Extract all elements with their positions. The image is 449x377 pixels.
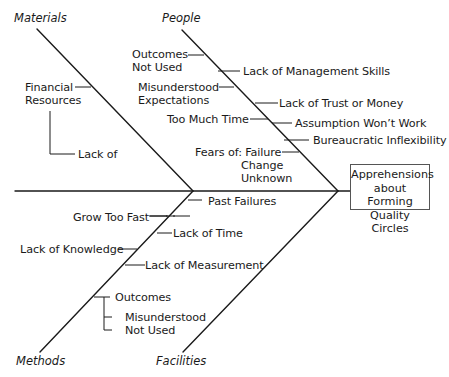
cause-misunderstood-methods: Misunderstood — [125, 311, 206, 324]
cause-misunderstood-expectations: Misunderstood — [138, 81, 219, 94]
cause-outcomes: Outcomes — [132, 48, 188, 61]
cause-not-used-methods: Not Used — [125, 324, 175, 337]
category-facilities: Facilities — [156, 355, 206, 368]
cause-outcomes-methods: Outcomes — [115, 291, 171, 304]
cause-trust-money: Lack of Trust or Money — [279, 97, 403, 110]
cause-financial: Financial — [25, 81, 73, 94]
effect-line-2: about Forming — [351, 182, 429, 209]
cause-lack-of-knowledge: Lack of Knowledge — [20, 243, 123, 256]
cause-fears-change: Change — [241, 159, 283, 172]
effect-box: Apprehensions about Forming Quality Circ… — [350, 164, 430, 210]
cause-fears: Fears of: Failure — [195, 146, 281, 159]
cause-lack-of: Lack of — [78, 148, 117, 161]
cause-too-much-time: Too Much Time — [167, 113, 249, 126]
cause-misunderstood-expectations-2: Expectations — [138, 94, 209, 107]
category-methods: Methods — [16, 355, 65, 368]
cause-past-failures: Past Failures — [208, 195, 276, 208]
cause-lack-of-time: Lack of Time — [173, 227, 243, 240]
cause-fears-unknown: Unknown — [241, 172, 292, 185]
cause-lack-of-measurement: Lack of Measurement — [145, 259, 264, 272]
effect-line-3: Quality Circles — [351, 209, 429, 236]
effect-line-1: Apprehensions — [351, 168, 429, 182]
category-people: People — [162, 12, 201, 25]
cause-financial-2: Resources — [25, 94, 81, 107]
category-materials: Materials — [14, 12, 67, 25]
cause-management-skills: Lack of Management Skills — [243, 65, 390, 78]
cause-assumption: Assumption Won’t Work — [295, 117, 426, 130]
cause-grow-too-fast: Grow Too Fast — [73, 211, 149, 224]
cause-outcomes-2: Not Used — [132, 61, 182, 74]
cause-bureaucratic: Bureaucratic Inflexibility — [313, 134, 446, 147]
